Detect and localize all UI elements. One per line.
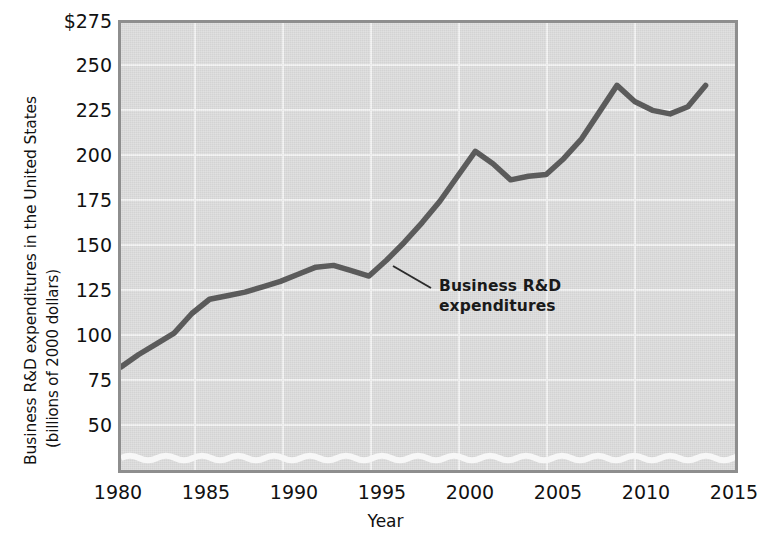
x-tick-1995: 1995 [342,481,422,503]
y-tick-250: 250 [38,56,112,75]
annotation-leader-line [393,266,431,288]
axis-break-squiggle [121,456,738,461]
y-tick-50: 50 [38,416,112,435]
chart-svg-overlay [121,23,738,473]
annotation-line2: expenditures [439,296,561,316]
y-tick-75: 75 [38,371,112,390]
chart-figure: Business R&D expenditures in the United … [0,0,771,540]
x-tick-2005: 2005 [518,481,598,503]
x-tick-1990: 1990 [254,481,334,503]
y-axis-tick-labels: $275 250 225 200 175 150 125 100 75 50 [38,0,112,478]
plot-area: Business R&D expenditures [118,20,738,473]
plot-inner: Business R&D expenditures [121,23,735,470]
x-tick-1985: 1985 [166,481,246,503]
annotation-line1: Business R&D [439,276,561,296]
y-tick-175: 175 [38,191,112,210]
x-tick-2015: 2015 [694,481,771,503]
x-tick-1980: 1980 [78,481,158,503]
y-tick-150: 150 [38,236,112,255]
x-tick-2010: 2010 [606,481,686,503]
x-tick-2000: 2000 [430,481,510,503]
data-series-line [121,85,706,367]
y-tick-125: 125 [38,281,112,300]
y-tick-100: 100 [38,326,112,345]
y-tick-275: $275 [38,12,112,31]
x-axis-title: Year [0,511,771,531]
y-tick-200: 200 [38,146,112,165]
y-tick-225: 225 [38,101,112,120]
annotation-label: Business R&D expenditures [439,276,561,317]
